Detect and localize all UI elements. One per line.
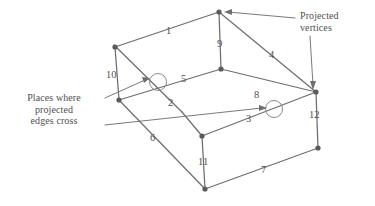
projected-vertices-line1: Projected: [300, 10, 339, 22]
arrowhead-right-vertex: [310, 81, 316, 90]
vertex-top: [216, 9, 221, 14]
edge-label-3: 3: [246, 113, 251, 124]
crossing-markers: [150, 74, 283, 118]
edge-label-9: 9: [217, 38, 222, 49]
vertex-bottom: [202, 186, 207, 191]
edge-label-11: 11: [198, 156, 208, 167]
leader-to-right-vertex: [310, 36, 313, 85]
projected-vertices-annotation: Projected vertices: [300, 10, 339, 33]
vertex-bottom-right: [315, 145, 320, 150]
crossing-right-circle: [266, 101, 283, 118]
vertex-upper-left: [112, 44, 117, 49]
edge-label-1: 1: [166, 25, 171, 36]
edge-label-7: 7: [261, 164, 266, 175]
edge-label-4: 4: [269, 49, 274, 60]
places-where-annotation: Places where projected edges cross: [8, 92, 100, 127]
projection-figure: 1 2 3 4 5 6 7 8 9 10 11 12 Projected ver…: [0, 0, 375, 206]
arrowhead-top-vertex: [224, 9, 232, 15]
projected-vertices-line2: vertices: [300, 22, 339, 34]
vertex-inner-bottom: [199, 133, 204, 138]
edge-6: [119, 100, 205, 189]
edge-label-5: 5: [181, 73, 186, 84]
edge-label-10: 10: [106, 69, 117, 80]
vertex-left: [116, 97, 121, 102]
places-where-line2: projected: [8, 104, 100, 116]
places-where-line3: edges cross: [8, 115, 100, 127]
places-where-line1: Places where: [8, 92, 100, 104]
graph-edges: [114, 12, 318, 189]
leader-to-crossing-left: [105, 80, 145, 98]
edge-label-6: 6: [150, 132, 155, 143]
leader-to-top-vertex: [228, 12, 295, 18]
edge-label-2: 2: [168, 97, 173, 108]
vertex-right: [313, 89, 318, 94]
edge-label-12: 12: [309, 109, 320, 120]
vertex-mid-center: [218, 66, 223, 71]
edge-label-8: 8: [254, 89, 259, 100]
